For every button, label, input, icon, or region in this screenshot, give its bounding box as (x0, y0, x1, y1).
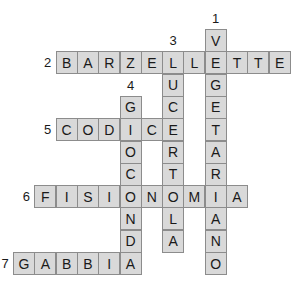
crossword-cell[interactable]: R (205, 163, 227, 186)
crossword-cell[interactable]: C (120, 163, 142, 186)
crossword-cell[interactable]: T (226, 51, 248, 74)
crossword-grid: VEGETARIANO1BARZELLTTE2UCERTOLA3GIOCONDA… (0, 0, 304, 288)
crossword-cell[interactable]: E (141, 51, 163, 74)
crossword-cell[interactable]: A (205, 141, 227, 164)
clue-number-1: 1 (209, 12, 223, 26)
crossword-cell[interactable]: Z (120, 51, 142, 74)
crossword-cell[interactable]: C (56, 118, 78, 141)
crossword-cell[interactable]: O (77, 118, 99, 141)
crossword-cell[interactable]: G (120, 96, 142, 119)
crossword-cell[interactable]: D (120, 230, 142, 253)
crossword-cell[interactable]: F (34, 185, 56, 208)
crossword-cell[interactable]: U (162, 74, 184, 97)
crossword-cell[interactable]: A (120, 252, 142, 275)
crossword-cell[interactable]: A (77, 51, 99, 74)
crossword-cell[interactable]: O (205, 252, 227, 275)
crossword-cell[interactable]: N (205, 230, 227, 253)
crossword-cell[interactable]: O (120, 141, 142, 164)
clue-number-2: 2 (41, 56, 55, 70)
clue-number-5: 5 (41, 123, 55, 137)
crossword-cell[interactable]: I (205, 185, 227, 208)
clue-number-6: 6 (19, 190, 33, 204)
crossword-cell[interactable]: A (226, 185, 248, 208)
crossword-cell[interactable]: N (141, 185, 163, 208)
crossword-cell[interactable]: L (183, 51, 205, 74)
crossword-cell[interactable]: A (34, 252, 56, 275)
crossword-cell[interactable]: G (13, 252, 35, 275)
crossword-cell[interactable]: D (98, 118, 120, 141)
crossword-cell[interactable]: A (205, 207, 227, 230)
crossword-cell[interactable]: R (98, 51, 120, 74)
crossword-cell[interactable]: A (162, 230, 184, 253)
crossword-cell[interactable]: O (162, 185, 184, 208)
crossword-cell[interactable]: E (205, 51, 227, 74)
crossword-cell[interactable]: N (120, 207, 142, 230)
crossword-cell[interactable]: V (205, 29, 227, 52)
crossword-cell[interactable]: T (162, 163, 184, 186)
crossword-cell[interactable]: E (269, 51, 291, 74)
crossword-cell[interactable]: I (120, 118, 142, 141)
crossword-cell[interactable]: E (205, 96, 227, 119)
crossword-cell[interactable]: M (183, 185, 205, 208)
crossword-cell[interactable]: B (56, 252, 78, 275)
clue-number-7: 7 (0, 257, 12, 271)
clue-number-4: 4 (124, 79, 138, 93)
crossword-cell[interactable]: L (162, 207, 184, 230)
crossword-cell[interactable]: T (247, 51, 269, 74)
crossword-cell[interactable]: G (205, 74, 227, 97)
crossword-cell[interactable]: E (162, 118, 184, 141)
crossword-cell[interactable]: O (120, 185, 142, 208)
crossword-cell[interactable]: C (141, 118, 163, 141)
crossword-cell[interactable]: T (205, 118, 227, 141)
crossword-cell[interactable]: I (56, 185, 78, 208)
crossword-cell[interactable]: L (162, 51, 184, 74)
crossword-cell[interactable]: I (98, 185, 120, 208)
clue-number-3: 3 (166, 34, 180, 48)
crossword-cell[interactable]: B (56, 51, 78, 74)
crossword-cell[interactable]: R (162, 141, 184, 164)
crossword-cell[interactable]: C (162, 96, 184, 119)
crossword-cell[interactable]: I (98, 252, 120, 275)
crossword-cell[interactable]: B (77, 252, 99, 275)
crossword-cell[interactable]: S (77, 185, 99, 208)
